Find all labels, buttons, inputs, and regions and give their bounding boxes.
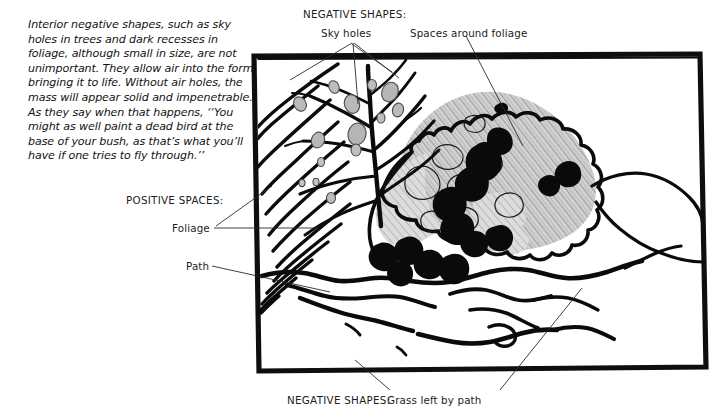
label-foliage: Foliage	[172, 222, 210, 234]
drawing-contents	[253, 60, 703, 355]
label-sky-holes: Sky holes	[321, 27, 371, 39]
path-and-grass	[262, 246, 681, 355]
leader-foliage-2	[216, 186, 272, 226]
figure-caption: Interior negative shapes, such as sky ho…	[28, 18, 260, 164]
label-grass-left-by-path: Grass left by path	[387, 394, 482, 406]
label-positive-spaces: POSITIVE SPACES:	[126, 194, 224, 206]
leader-grass-2	[500, 288, 582, 390]
figure-page: Interior negative shapes, such as sky ho…	[0, 0, 725, 418]
leader-grass-1	[355, 360, 390, 390]
background-hill	[592, 173, 703, 262]
label-negative-shapes-bottom: NEGATIVE SHAPES:	[287, 394, 390, 406]
leader-sky-holes-3	[354, 43, 399, 78]
label-negative-shapes-top: NEGATIVE SHAPES:	[303, 8, 406, 20]
label-path: Path	[186, 260, 209, 272]
label-spaces-around-foliage: Spaces around foliage	[410, 27, 527, 39]
